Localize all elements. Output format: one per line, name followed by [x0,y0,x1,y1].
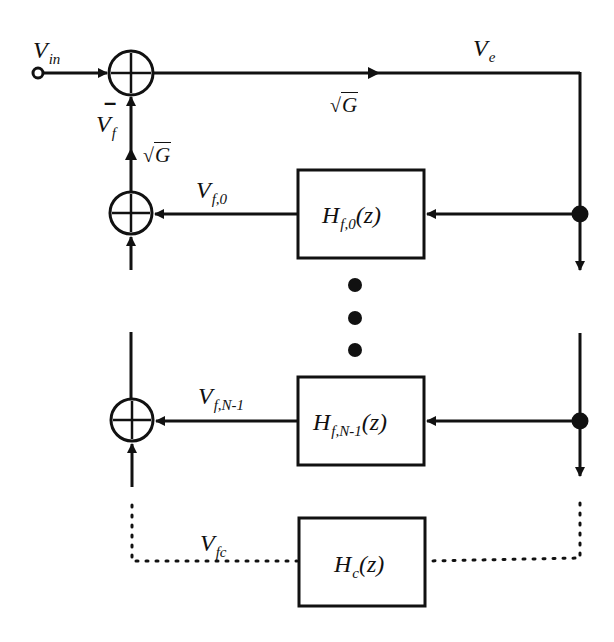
forward-arrow-icon [368,67,380,79]
label-feedback-gain: √G [143,145,171,166]
feedback-gain-arrow-icon [125,148,137,160]
forward-gain-arg: G [341,92,358,117]
label-v-fn1-main: V [198,383,213,409]
forward-gain-radical: √ [330,94,341,116]
label-v-in-sub: in [49,51,61,67]
filter-c-label-tail: (z) [359,551,384,577]
filter-0-label-sub: f,0 [340,216,355,232]
label-v-fn1-sub: f,N-1 [214,397,244,413]
label-forward-gain: √G [330,95,358,116]
sum-main-icon [109,51,153,95]
filter-c-label-main: H [334,551,351,577]
label-v-e-sub: e [489,49,496,65]
label-v-e: Ve [473,36,495,60]
filter-n1-label-main: H [313,409,330,435]
label-v-f0-main: V [196,177,211,203]
filter-n1-label-tail: (z) [362,409,387,435]
label-v-fn1: Vf,N-1 [198,384,244,408]
filter-n1-label-sub: f,N-1 [331,423,361,439]
label-v-f-sub: f [112,125,116,141]
filter-c-label: Hc(z) [334,552,384,576]
label-v-fc-main: V [200,530,215,556]
compensation-right-dotted-wire [427,503,580,561]
sum-0-icon [110,192,152,234]
label-v-f: Vf [96,112,116,136]
label-v-f-main: V [96,111,111,137]
sum-n1-icon [111,399,153,441]
label-v-f0: Vf,0 [196,178,227,202]
label-v-f0-sub: f,0 [212,191,227,207]
label-v-in: Vin [33,38,60,62]
filter-0-label-main: H [322,202,339,228]
filter-c-label-sub: c [352,565,359,581]
feedback-gain-radical: √ [143,144,154,166]
cropped-caption [100,0,530,6]
label-v-fc: Vfc [200,531,227,555]
filter-0-label: Hf,0(z) [322,203,381,227]
input-terminal-icon [33,68,43,78]
filter-0-label-tail: (z) [356,202,381,228]
filter-n1-label: Hf,N-1(z) [313,410,387,434]
feedback-gain-arg: G [154,142,171,167]
label-v-in-main: V [33,37,48,63]
label-v-e-main: V [473,35,488,61]
ellipsis-icon [348,278,362,357]
block-diagram [0,0,614,642]
label-v-fc-sub: fc [216,544,227,560]
